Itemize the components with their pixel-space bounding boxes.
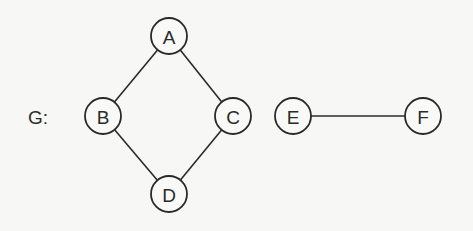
node-c: C xyxy=(215,98,251,134)
node-b: B xyxy=(85,98,121,134)
nodes-layer: ABCDEF xyxy=(85,18,441,212)
edge-a-b xyxy=(114,50,157,102)
node-a: A xyxy=(151,18,187,54)
node-label: A xyxy=(163,27,176,48)
node-f: F xyxy=(405,98,441,134)
edge-c-d xyxy=(180,130,221,180)
node-label: C xyxy=(226,107,240,128)
node-e: E xyxy=(275,98,311,134)
node-label: D xyxy=(162,185,176,206)
node-d: D xyxy=(151,176,187,212)
node-label: B xyxy=(97,107,110,128)
node-label: E xyxy=(287,107,300,128)
node-label: F xyxy=(417,107,429,128)
edges-layer xyxy=(114,50,405,180)
graph-name-label: G: xyxy=(28,107,48,128)
edge-a-c xyxy=(180,50,222,102)
graph-diagram: G: ABCDEF xyxy=(0,0,473,231)
edge-b-d xyxy=(115,130,158,181)
